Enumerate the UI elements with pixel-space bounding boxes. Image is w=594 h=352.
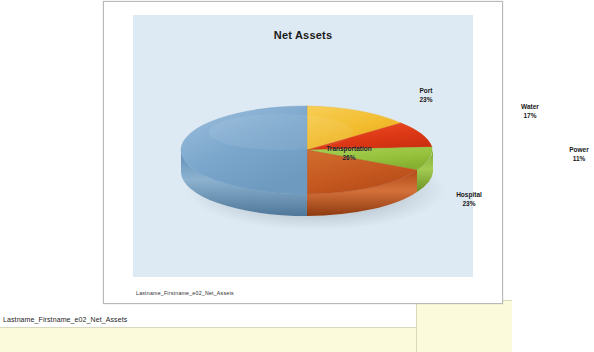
page-corner-strip [416,300,512,352]
pie-label-port: Port 23% [401,87,451,104]
chart-title: Net Assets [133,29,473,41]
pie-label-transportation-percent: 26% [309,154,389,163]
pie-label-water-name: Water [521,103,539,110]
pie-label-port-name: Port [420,87,433,94]
pie-label-hospital-percent: 23% [438,200,500,209]
chart-object[interactable]: Net Assets [133,15,473,277]
sheet-footer-filename: Lastname_Firstname_e02_Net_Assets [3,316,127,323]
pie-label-hospital: Hospital 23% [438,191,500,208]
pie-label-hospital-name: Hospital [456,191,482,198]
page-footer-filename: Lastname_Firstname_e02_Net_Assets [136,290,234,296]
pie-label-power-name: Power [569,146,589,153]
pie-label-power-percent: 11% [557,155,594,164]
pie-label-transportation: Transportation 26% [309,145,389,162]
pie-label-transportation-name: Transportation [326,145,372,152]
pie-label-port-percent: 23% [401,96,451,105]
pie-label-water: Water 17% [505,103,555,120]
pie-label-water-percent: 17% [505,112,555,121]
document-page: Net Assets [103,1,503,304]
pie-label-power: Power 11% [557,146,594,163]
